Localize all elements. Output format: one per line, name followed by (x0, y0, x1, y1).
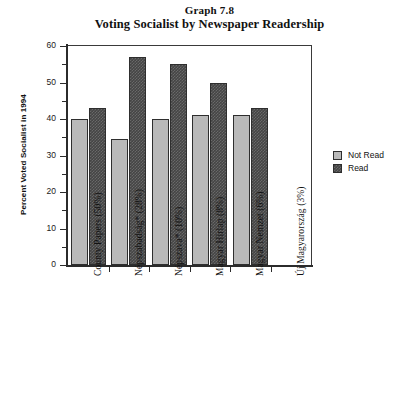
graph-number: Graph 7.8 (0, 4, 419, 17)
x-tick (230, 267, 231, 272)
category-label: Új Magyarország (3%) (296, 156, 306, 276)
category-label: Népszava* (10%) (174, 156, 184, 276)
y-tick-minor (62, 210, 67, 211)
category-label: Magyar Hírlap (8%) (215, 156, 225, 276)
bar-not-read (71, 119, 88, 265)
y-tick-minor (62, 64, 67, 65)
chart-title-block: Graph 7.8 Voting Socialist by Newspaper … (0, 4, 419, 32)
y-tick-label: 30 (30, 150, 56, 160)
y-tick-label: 10 (30, 223, 56, 233)
y-tick-minor (62, 174, 67, 175)
category-label: Magyar Nemzet (6%) (255, 156, 265, 276)
y-tick-minor (62, 101, 67, 102)
y-tick-label: 0 (30, 259, 56, 269)
y-tick-label: 40 (30, 113, 56, 123)
y-tick-label: 60 (30, 40, 56, 50)
x-tick (109, 267, 110, 272)
y-tick-minor (62, 247, 67, 248)
legend-label: Not Read (348, 150, 384, 160)
y-tick-minor (62, 137, 67, 138)
x-tick (190, 267, 191, 272)
legend-swatch-notread (333, 151, 342, 160)
y-axis-title: Percent Voted Socialist in 1994 (19, 70, 28, 240)
bar-not-read (192, 115, 209, 265)
y-tick-major (60, 46, 67, 47)
y-tick-major (60, 156, 67, 157)
bar-not-read (152, 119, 169, 265)
chart-legend: Not ReadRead (333, 150, 384, 176)
legend-swatch-read (333, 164, 342, 173)
y-tick-major (60, 265, 67, 266)
bar-not-read (233, 115, 250, 265)
y-tick-label: 50 (30, 77, 56, 87)
y-tick-major (60, 83, 67, 84)
legend-item: Read (333, 163, 384, 173)
y-tick-label: 20 (30, 186, 56, 196)
x-tick (271, 267, 272, 272)
bars-layer (68, 46, 311, 265)
x-tick (149, 267, 150, 272)
y-tick-major (60, 192, 67, 193)
category-label: County Papers (50%) (93, 156, 103, 276)
y-tick-major (60, 119, 67, 120)
chart-figure: Graph 7.8 Voting Socialist by Newspaper … (0, 0, 419, 397)
bar-not-read (111, 139, 128, 265)
category-label: Népszabadság* (28%) (134, 156, 144, 276)
legend-item: Not Read (333, 150, 384, 160)
chart-title: Voting Socialist by Newspaper Readership (0, 17, 419, 32)
y-tick-major (60, 229, 67, 230)
legend-label: Read (348, 163, 368, 173)
